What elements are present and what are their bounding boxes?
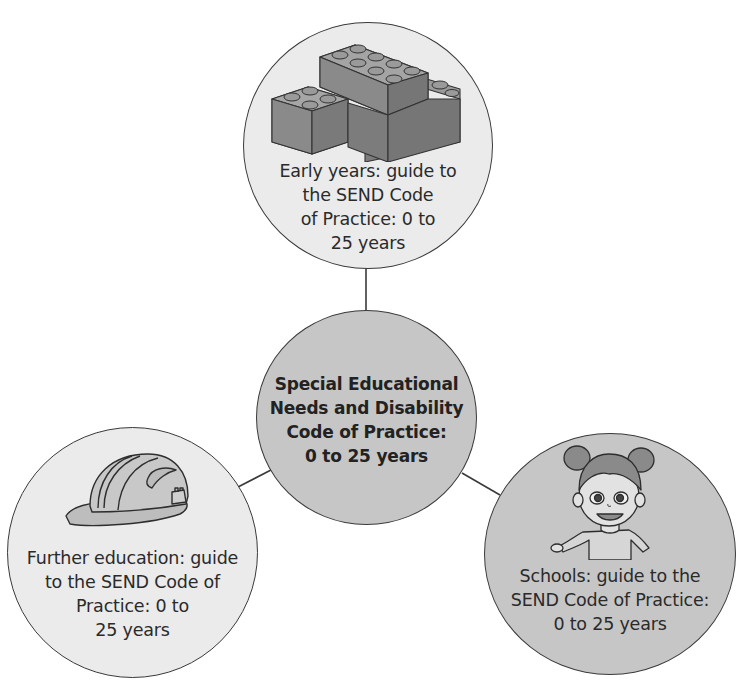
lego-bricks-icon bbox=[270, 37, 470, 162]
center-line-1: Special Educational bbox=[257, 372, 476, 396]
node-early-years: Early years: guide to the SEND Code of P… bbox=[243, 22, 493, 269]
further-education-line-2: to the SEND Code of bbox=[8, 570, 257, 594]
early-years-line-4: 25 years bbox=[244, 231, 492, 255]
center-line-3: Code of Practice: bbox=[257, 420, 476, 444]
early-years-line-1: Early years: guide to bbox=[244, 159, 492, 183]
early-years-line-3: of Practice: 0 to bbox=[244, 207, 492, 231]
hard-hat-icon bbox=[62, 448, 202, 528]
node-further-education: Further education: guide to the SEND Cod… bbox=[7, 427, 258, 678]
send-code-diagram: Early years: guide to the SEND Code of P… bbox=[0, 0, 751, 683]
connector-left bbox=[238, 470, 271, 487]
further-education-line-3: Practice: 0 to bbox=[8, 594, 257, 618]
schools-line-1: Schools: guide to the bbox=[485, 564, 735, 588]
schools-line-3: 0 to 25 years bbox=[485, 612, 735, 636]
node-schools: Schools: guide to the SEND Code of Pract… bbox=[484, 433, 736, 675]
schools-line-2: SEND Code of Practice: bbox=[485, 588, 735, 612]
center-line-4: 0 to 25 years bbox=[257, 444, 476, 468]
connector-right bbox=[462, 473, 500, 495]
schoolgirl-icon bbox=[545, 440, 675, 560]
node-center-send-code: Special Educational Needs and Disability… bbox=[256, 310, 477, 525]
early-years-line-2: the SEND Code bbox=[244, 183, 492, 207]
further-education-line-1: Further education: guide bbox=[8, 546, 257, 570]
further-education-line-4: 25 years bbox=[8, 618, 257, 642]
center-line-2: Needs and Disability bbox=[257, 396, 476, 420]
